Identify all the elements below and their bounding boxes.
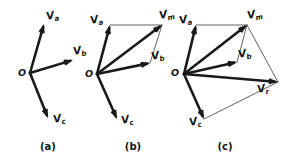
arrowhead-icon-vc-c bbox=[198, 110, 204, 119]
arrowhead-icon-vb-b bbox=[140, 62, 150, 68]
vector-diagram-figure: VaVbVcO(a)VaVbVcVmO(b)VaVbVcVmVrO(c) bbox=[0, 0, 288, 165]
label-vc-c: Vc bbox=[188, 114, 203, 131]
label-vm-c: Vm bbox=[246, 6, 264, 24]
arrowhead-icon-vc-b bbox=[111, 110, 117, 119]
label-vr-c: Vr bbox=[256, 81, 271, 98]
label-vm-b: Vm bbox=[158, 6, 176, 24]
label-vc-b: Vc bbox=[120, 112, 135, 129]
label-vb-a: Vb bbox=[72, 43, 87, 60]
arrowhead-icon-vc-a bbox=[42, 108, 48, 118]
label-va-c: Va bbox=[178, 12, 193, 29]
construction-line-c-2 bbox=[247, 25, 278, 82]
arrowhead-icon-vb-a bbox=[63, 59, 73, 65]
label-vb-b: Vb bbox=[150, 48, 165, 65]
panel-c: VaVbVcVmVrO(c) bbox=[171, 6, 278, 152]
origin-label-a: O bbox=[18, 67, 26, 78]
vector-diagram-canvas: VaVbVcO(a)VaVbVcVmO(b)VaVbVcVmVrO(c) bbox=[0, 0, 288, 165]
arrowhead-icon-va-b bbox=[105, 25, 111, 35]
origin-label-c: O bbox=[171, 67, 179, 78]
vector-vr-c bbox=[184, 74, 275, 82]
panel-a: VaVbVcO(a) bbox=[18, 8, 87, 152]
panel-b: VaVbVcVmO(b) bbox=[85, 6, 176, 152]
label-va-a: Va bbox=[45, 8, 60, 25]
label-vc-a: Vc bbox=[52, 111, 67, 128]
label-vb-c: Vb bbox=[237, 46, 252, 63]
caption-b: (b) bbox=[125, 141, 141, 152]
arrowhead-icon-vb-c bbox=[227, 61, 237, 67]
label-va-b: Va bbox=[89, 12, 104, 29]
arrowhead-icon-va-a bbox=[39, 24, 45, 34]
caption-c: (c) bbox=[217, 141, 232, 152]
caption-a: (a) bbox=[40, 141, 56, 152]
origin-label-b: O bbox=[85, 68, 93, 79]
